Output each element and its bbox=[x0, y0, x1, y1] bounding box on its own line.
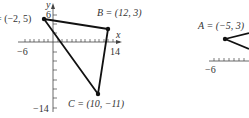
y-axis-ticks bbox=[53, 15, 57, 108]
point-c-label: C = (10, −11) bbox=[68, 98, 125, 110]
right-figure: A = (−5, 3) −6 bbox=[197, 20, 249, 75]
x-min-tick-label: −6 bbox=[17, 46, 28, 57]
y-axis-arrow-icon bbox=[51, 3, 55, 9]
point-b bbox=[106, 27, 110, 31]
y-min-tick-label: −14 bbox=[33, 103, 49, 114]
right-x-min-tick-label: −6 bbox=[205, 64, 216, 75]
x-axis-ticks bbox=[25, 39, 113, 42]
point-b-label: B = (12, 3) bbox=[97, 7, 142, 19]
point-a-label: = (−2, 5) bbox=[0, 13, 31, 25]
left-figure: = (−2, 5) B = (12, 3) C = (10, −11) −6 1… bbox=[0, 0, 142, 114]
point-c bbox=[96, 92, 100, 96]
triangle-abc bbox=[44, 19, 108, 94]
x-axis-arrow-icon bbox=[116, 40, 122, 44]
right-point-a bbox=[223, 37, 227, 41]
y-max-tick-label: 6 bbox=[46, 9, 51, 20]
right-shape-edges bbox=[225, 33, 249, 49]
right-x-axis-ticks bbox=[214, 58, 244, 61]
x-axis-label: x bbox=[115, 29, 121, 40]
x-max-tick-label: 14 bbox=[110, 46, 120, 57]
right-point-a-label: A = (−5, 3) bbox=[197, 20, 245, 32]
y-axis-label: y bbox=[45, 0, 51, 10]
diagram-canvas: = (−2, 5) B = (12, 3) C = (10, −11) −6 1… bbox=[0, 0, 249, 118]
